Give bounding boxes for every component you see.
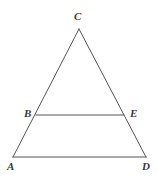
vertex-label-A: A: [7, 161, 14, 172]
geometry-figure: C B E A D: [0, 0, 158, 180]
vertex-label-B: B: [24, 108, 31, 119]
vertex-label-D: D: [142, 161, 150, 172]
triangle-diagram-svg: [0, 0, 158, 180]
vertex-label-C: C: [74, 11, 81, 22]
side-AC-line: [13, 29, 79, 157]
side-CD-line: [79, 29, 146, 157]
vertex-label-E: E: [130, 108, 137, 119]
